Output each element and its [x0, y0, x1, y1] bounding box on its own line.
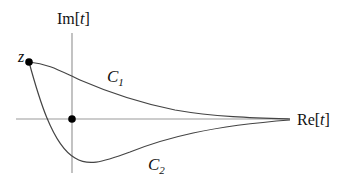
real-axis-label: Re[t] [297, 111, 330, 128]
contour-c1 [29, 62, 290, 119]
contour-c2 [29, 62, 290, 163]
contour-diagram: Im[t] Re[t] z C1 C2 [0, 0, 343, 186]
imag-axis-label: Im[t] [57, 10, 90, 27]
point-z [25, 58, 33, 66]
origin-point [68, 115, 76, 123]
contour-c2-label: C2 [148, 155, 165, 176]
point-z-label: z [17, 48, 25, 65]
contour-c1-label: C1 [107, 67, 124, 88]
